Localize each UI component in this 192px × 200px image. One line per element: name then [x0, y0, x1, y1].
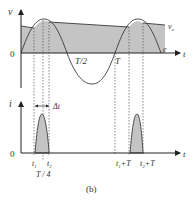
top-origin-label: 0 — [10, 49, 15, 59]
vo-label: vo — [168, 22, 175, 32]
delta-t-label: Δt — [52, 102, 61, 111]
bottom-x-label: t — [183, 149, 186, 159]
half-period-label: T/2 — [75, 56, 88, 66]
t2-label: t2 — [47, 159, 52, 169]
t2-plus-T-label: t2+T — [140, 159, 155, 169]
bottom-y-label: i — [9, 98, 12, 109]
t1-plus-T-label: t1+T — [116, 159, 131, 169]
period-label: T — [115, 56, 121, 66]
current-pulse-2 — [130, 114, 143, 153]
quarter-period-label: T / 4 — [36, 170, 51, 179]
rectifier-waveform-diagram: v 0 t vo e T/2 T Δt i 0 t t1 t2 T / 4 t1… — [0, 0, 192, 200]
bottom-origin-label: 0 — [10, 149, 15, 159]
e-label: e — [163, 45, 167, 54]
shaded-capacitor-region — [21, 21, 165, 53]
top-plot: v 0 t vo e T/2 T — [8, 6, 186, 88]
t1-label: t1 — [32, 159, 37, 169]
figure-caption: (b) — [86, 184, 97, 194]
current-pulse-1 — [35, 114, 49, 153]
top-y-label: v — [8, 6, 13, 17]
bottom-plot: Δt i 0 t t1 t2 T / 4 t1+T t2+T — [9, 98, 186, 179]
top-x-label: t — [183, 49, 186, 59]
